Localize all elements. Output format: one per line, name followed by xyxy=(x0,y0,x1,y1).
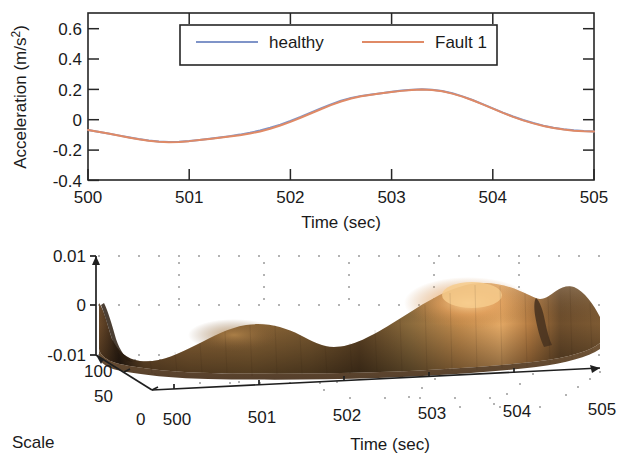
time3d-tick-label: 505 xyxy=(588,400,616,419)
time-axis-arrow xyxy=(590,365,600,373)
series-line-healthy xyxy=(88,89,594,142)
x-tick-label: 504 xyxy=(479,188,507,207)
x-tick-label: 501 xyxy=(175,188,203,207)
z-tick-label: -0.01 xyxy=(47,346,86,365)
time3d-tick-label: 500 xyxy=(163,410,191,429)
time3d-axis-title: Time (sec) xyxy=(350,435,430,454)
x-tick-label: 500 xyxy=(74,188,102,207)
gridline-z-top xyxy=(98,255,600,257)
time3d-tick-label: 503 xyxy=(418,404,446,423)
figure-container: 0.6 0.4 0.2 0 -0.2 -0.4 500 501 502 xyxy=(0,0,631,473)
z-tick-label: 0.01 xyxy=(53,247,86,266)
series-line-fault1 xyxy=(88,90,594,143)
surface-bump-highlight xyxy=(188,319,280,351)
z-tick-label: 0 xyxy=(77,296,86,315)
scale-tick-label: 50 xyxy=(94,387,113,406)
legend-label-healthy: healthy xyxy=(269,33,324,52)
y-tick-label: -0.2 xyxy=(53,141,82,160)
scale-tick-label: 100 xyxy=(84,362,112,381)
acceleration-chart-svg: 0.6 0.4 0.2 0 -0.2 -0.4 500 501 502 xyxy=(0,0,631,235)
scale-tick-label: 0 xyxy=(136,410,145,429)
surface-mesh xyxy=(99,277,600,380)
y-tick-label: 0.4 xyxy=(58,50,82,69)
y-tick-label: 0.2 xyxy=(58,81,82,100)
time3d-tick-label: 502 xyxy=(333,406,361,425)
time3d-tick-label: 501 xyxy=(248,408,276,427)
legend-label-fault1: Fault 1 xyxy=(435,33,487,52)
scale-axis-title: Scale xyxy=(12,433,55,452)
x-tick-label: 502 xyxy=(276,188,304,207)
x-tick-label: 505 xyxy=(580,188,608,207)
x-axis-title: Time (sec) xyxy=(301,213,381,232)
y-tick-label: 0 xyxy=(73,111,82,130)
y-axis-title-base: Acceleration (m/s xyxy=(11,38,30,169)
svg-text:Acceleration (m/s2): Acceleration (m/s2) xyxy=(9,25,30,169)
z-axis-arrow xyxy=(92,256,100,265)
surface-peak-core xyxy=(442,282,502,308)
time3d-tick-label: 504 xyxy=(503,402,531,421)
wavelet-surface-svg: 0.01 0 -0.01 100 50 0 500 501 502 503 50… xyxy=(0,235,631,473)
legend[interactable]: healthy Fault 1 xyxy=(180,25,497,65)
y-axis-title: Acceleration (m/s2) xyxy=(9,25,30,169)
series-group xyxy=(88,89,594,142)
x-tick-label: 503 xyxy=(377,188,405,207)
y-axis-title-tail: ) xyxy=(11,25,30,31)
wavelet-surface-panel: 0.01 0 -0.01 100 50 0 500 501 502 503 50… xyxy=(0,235,631,473)
y-tick-label: 0.6 xyxy=(58,20,82,39)
acceleration-time-series-panel: 0.6 0.4 0.2 0 -0.2 -0.4 500 501 502 xyxy=(0,0,631,235)
